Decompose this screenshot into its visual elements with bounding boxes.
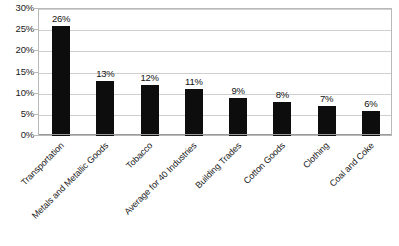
bar[interactable] [185, 89, 203, 136]
category-label-slot: Clothing [304, 137, 348, 245]
bar-slot: 9% [216, 9, 260, 136]
bar-value-label: 26% [52, 14, 70, 24]
bar-value-label: 8% [276, 90, 289, 100]
category-label-slot: Building Trades [215, 137, 259, 245]
bar[interactable] [318, 106, 336, 136]
y-axis-tick-label: 5% [0, 109, 34, 119]
y-axis-tick-label: 25% [0, 24, 34, 34]
bar-value-label: 13% [96, 69, 114, 79]
bar-value-label: 9% [231, 86, 244, 96]
bar[interactable] [52, 26, 70, 136]
bar[interactable] [229, 98, 247, 136]
x-axis-baseline [39, 134, 391, 135]
bar-value-label: 7% [320, 94, 333, 104]
bar-chart: 0%5%10%15%20%25%30% 26%13%12%11%9%8%7%6%… [0, 0, 399, 246]
category-label-slot: Metals and Metallic Goods [82, 137, 126, 245]
bar-value-label: 11% [185, 77, 203, 87]
x-axis-category-labels: TransportationMetals and Metallic GoodsT… [38, 137, 392, 245]
bar-slot: 13% [83, 9, 127, 136]
y-axis-tick-label: 0% [0, 130, 34, 140]
bar-slot: 11% [172, 9, 216, 136]
bar-slot: 7% [305, 9, 349, 136]
bar[interactable] [96, 81, 114, 136]
category-label-slot: Average for 40 Industries [171, 137, 215, 245]
bar-slot: 8% [260, 9, 304, 136]
bar-series: 26%13%12%11%9%8%7%6% [39, 9, 393, 136]
bar[interactable] [141, 85, 159, 136]
category-label-slot: Cotton Goods [259, 137, 303, 245]
y-axis: 0%5%10%15%20%25%30% [0, 0, 34, 246]
plot-area: 26%13%12%11%9%8%7%6% [38, 8, 392, 136]
y-axis-tick-label: 10% [0, 88, 34, 98]
y-axis-tick-label: 30% [0, 3, 34, 13]
bar-slot: 6% [349, 9, 393, 136]
bar-value-label: 12% [140, 73, 158, 83]
bar-value-label: 6% [364, 99, 377, 109]
bar[interactable] [273, 102, 291, 136]
category-label-slot: Coal and Coke [348, 137, 392, 245]
bar[interactable] [362, 111, 380, 136]
bar-slot: 12% [128, 9, 172, 136]
y-axis-tick-label: 15% [0, 67, 34, 77]
y-axis-tick-label: 20% [0, 45, 34, 55]
bar-slot: 26% [39, 9, 83, 136]
x-axis-tick-label: Tobacco [124, 139, 156, 171]
x-axis-tick-label: Clothing [301, 139, 332, 170]
